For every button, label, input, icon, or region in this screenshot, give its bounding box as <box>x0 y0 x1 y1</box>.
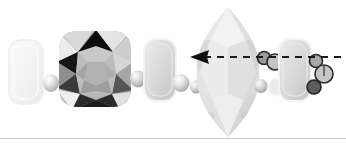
marquise-cut-pale-gem <box>193 7 263 137</box>
small-round-bead-5 <box>255 79 268 93</box>
jewelry-strand-illustration <box>0 0 346 147</box>
small-round-bead-3 <box>173 74 190 92</box>
cushion-cut-dark-gem <box>57 28 133 110</box>
rounded-rect-bead-2-group <box>144 39 176 101</box>
rounded-rect-bead-3-group <box>279 39 311 101</box>
small-round-bead-1 <box>43 74 59 92</box>
pale-rounded-rect-bead-1-group <box>9 40 43 104</box>
bottom-divider <box>0 138 346 139</box>
marquise-gem-facets <box>193 7 263 137</box>
rounded-rect-bead-2 <box>144 39 176 101</box>
outlined-circle-bead-5 <box>307 80 321 94</box>
rounded-rect-bead-3 <box>279 39 311 101</box>
figure-canvas <box>0 0 346 147</box>
